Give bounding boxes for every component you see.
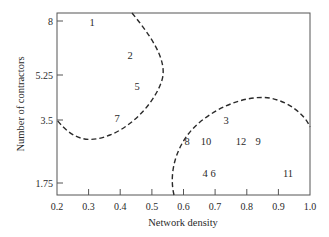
- x-axis-title: Network density: [148, 217, 218, 228]
- data-point-label: 8: [184, 136, 189, 147]
- scatter-chart: 0.20.30.40.50.60.70.80.91.0 85.253.51.75…: [0, 0, 329, 237]
- chart-canvas: 0.20.30.40.50.60.70.80.91.0 85.253.51.75…: [0, 0, 329, 237]
- data-point-label: 6: [210, 168, 215, 179]
- data-point-label: 3: [223, 115, 228, 126]
- x-tick-label: 1.0: [304, 201, 317, 212]
- x-tick-label: 0.7: [209, 201, 222, 212]
- y-axis-title: Number of contractors: [15, 56, 26, 151]
- x-tick-label: 0.6: [177, 201, 190, 212]
- cluster-boundary-upper-left: [57, 13, 163, 139]
- data-point-label: 12: [236, 136, 247, 147]
- y-tick-label: 3.5: [41, 115, 54, 126]
- data-point-label: 9: [255, 136, 260, 147]
- x-tick-label: 0.4: [114, 201, 127, 212]
- data-point-label: 7: [114, 113, 119, 124]
- data-point-label: 5: [134, 81, 139, 92]
- data-point-label: 4: [202, 168, 208, 179]
- data-point-label: 2: [127, 50, 132, 61]
- plot-frame: [57, 13, 310, 195]
- y-tick-label: 8: [48, 16, 53, 27]
- x-tick-label: 0.3: [82, 201, 95, 212]
- x-tick-label: 0.2: [51, 201, 64, 212]
- x-tick-label: 0.8: [241, 201, 254, 212]
- data-point-label: 11: [283, 168, 293, 179]
- x-tick-label: 0.9: [272, 201, 285, 212]
- y-axis: 85.253.51.75: [36, 16, 64, 189]
- y-tick-label: 1.75: [36, 178, 54, 189]
- x-tick-label: 0.5: [146, 201, 159, 212]
- data-point-label: 1: [89, 17, 94, 28]
- data-point-label: 10: [201, 136, 212, 147]
- y-tick-label: 5.25: [36, 70, 54, 81]
- data-point-labels: 125738101294611: [89, 17, 293, 179]
- x-axis: 0.20.30.40.50.60.70.80.91.0: [51, 189, 317, 212]
